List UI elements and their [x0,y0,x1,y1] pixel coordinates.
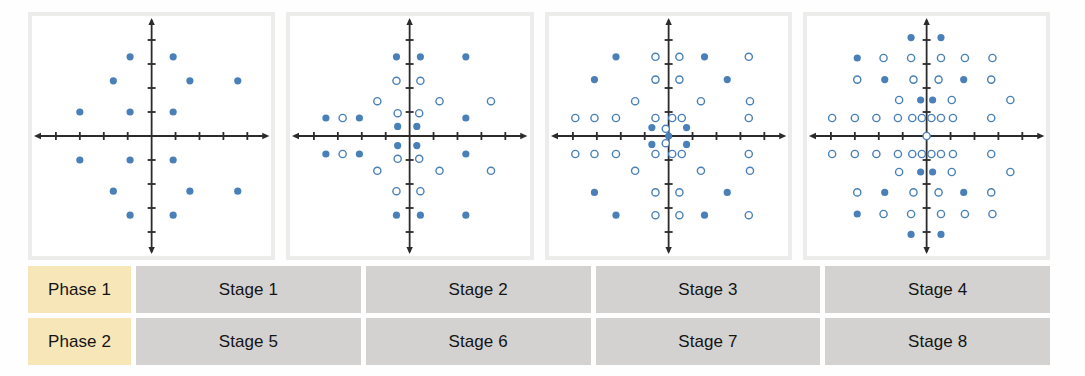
phase-stage-table: Phase 1 Stage 1 Stage 2 Stage 3 Stage 4 … [28,266,1050,366]
stage-cell-1: Stage 1 [136,266,361,313]
table-row: Phase 1 Stage 1 Stage 2 Stage 3 Stage 4 [28,266,1050,313]
panel-stage-4 [803,12,1050,260]
constellation-panel-row [28,12,1050,260]
stage-cell-4: Stage 4 [825,266,1050,313]
plot-stage-4 [807,16,1046,256]
panel-stage-3 [545,12,792,260]
plot-stage-1 [32,16,271,256]
table-row: Phase 2 Stage 5 Stage 6 Stage 7 Stage 8 [28,318,1050,365]
stage-cell-2: Stage 2 [366,266,591,313]
stage-cell-6: Stage 6 [366,318,591,365]
figure-root: Phase 1 Stage 1 Stage 2 Stage 3 Stage 4 … [0,0,1085,376]
panel-stage-1 [28,12,275,260]
stage-cell-7: Stage 7 [596,318,821,365]
stage-cell-5: Stage 5 [136,318,361,365]
phase-cell-2: Phase 2 [28,318,131,365]
plot-stage-2 [290,16,529,256]
stage-cell-3: Stage 3 [596,266,821,313]
plot-stage-3 [549,16,788,256]
stage-cell-8: Stage 8 [825,318,1050,365]
panel-stage-2 [286,12,533,260]
phase-cell-1: Phase 1 [28,266,131,313]
